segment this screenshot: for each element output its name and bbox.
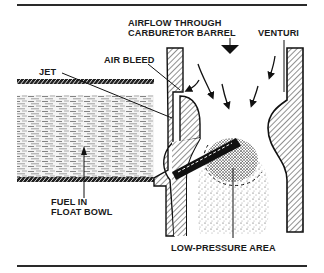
fuel-float-bowl [17, 95, 154, 177]
left-venturi-fill [172, 138, 200, 236]
label-airflow: AIRFLOW THROUGH CARBURETOR BARREL [128, 18, 236, 38]
airflow-arrows [188, 56, 275, 106]
bowl-bottom-wall [17, 177, 154, 182]
label-fuel: FUEL IN FLOAT BOWL [51, 197, 113, 217]
right-venturi-wall [268, 48, 303, 232]
label-airflow-line1: AIRFLOW THROUGH [128, 18, 236, 28]
airflow-main-arrow-icon [221, 45, 239, 54]
label-airflow-line2: CARBURETOR BARREL [128, 28, 236, 38]
label-low-pressure: LOW-PRESSURE AREA [171, 243, 276, 253]
label-venturi: VENTURI [258, 28, 299, 38]
air-bleed-boss [180, 96, 200, 142]
label-fuel-line1: FUEL IN [51, 197, 113, 207]
label-air-bleed: AIR BLEED [104, 55, 154, 65]
label-jet: JET [39, 67, 56, 77]
carburetor-diagram [0, 0, 324, 273]
bowl-top-wall [17, 79, 154, 84]
label-fuel-line2: FLOAT BOWL [51, 207, 113, 217]
